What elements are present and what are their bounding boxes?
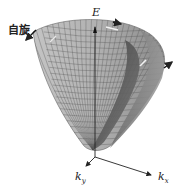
- band-diagram: E ky kx 自旋: [0, 0, 181, 185]
- ky-axis-label: ky: [75, 170, 87, 185]
- kx-axis: [95, 157, 151, 175]
- spin-label: 自旋: [8, 23, 31, 37]
- kx-axis-label: kx: [158, 170, 169, 185]
- energy-axis-label: E: [91, 6, 100, 19]
- ky-axis: [86, 157, 95, 166]
- spin-arrow-right: [164, 62, 172, 68]
